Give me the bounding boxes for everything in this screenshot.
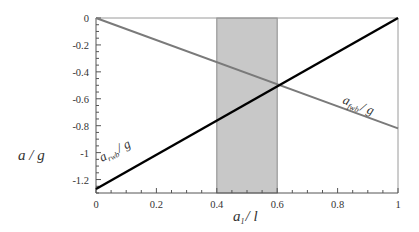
x-tick-label: 0.4	[210, 199, 224, 210]
x-tick-label: 0	[93, 199, 98, 210]
shaded-region	[217, 18, 277, 193]
y-tick-label: 0	[84, 13, 89, 24]
series-label-rwb: arwb/ g	[96, 136, 134, 167]
y-tick-label: -0.2	[72, 40, 89, 51]
y-tick-label: -0.6	[72, 94, 89, 105]
x-tick-label: 0.8	[331, 199, 344, 210]
shaded-band	[217, 18, 277, 193]
x-tick-label: 1	[395, 199, 400, 210]
y-tick-label: -0.8	[72, 121, 89, 132]
y-tick-label: -1.2	[72, 175, 89, 186]
x-tick-label: 0.6	[271, 199, 284, 210]
series-label-fwb: afwb/ g	[340, 92, 377, 120]
chart: 0-0.2-0.4-0.6-0.8-1-1.2 00.20.40.60.81 a…	[0, 0, 419, 232]
x-axis-title: a1/ l	[233, 208, 258, 226]
y-axis: 0-0.2-0.4-0.6-0.8-1-1.2	[72, 13, 101, 193]
y-axis-title: a / g	[18, 147, 45, 163]
y-tick-label: -0.4	[72, 67, 89, 78]
x-tick-label: 0.2	[150, 199, 163, 210]
y-tick-label: -1	[80, 148, 89, 159]
x-axis: 00.20.40.60.81	[93, 188, 400, 210]
